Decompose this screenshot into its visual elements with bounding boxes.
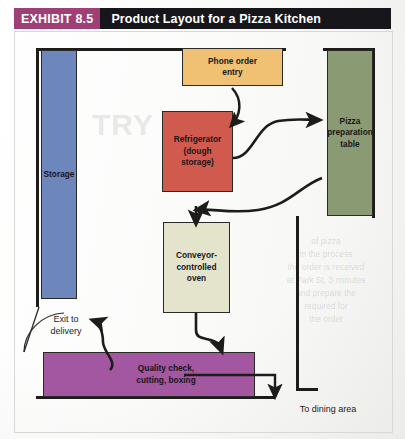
oven-label-line1: Conveyor- [176, 250, 217, 260]
fridge-label-line3: storage) [181, 157, 214, 167]
layout-box-pizza-preparation-table[interactable]: Pizza preparation table [327, 50, 373, 216]
exhibit-header: EXHIBIT 8.5 Product Layout for a Pizza K… [14, 8, 391, 29]
quality-label-line1: Quality check, [138, 363, 194, 373]
oven-label-line2: controlled [176, 262, 216, 272]
fridge-label-line1: Refrigerator [174, 134, 222, 144]
wall-left-vertical [36, 48, 39, 307]
oven-label-line3: oven [187, 273, 206, 283]
quality-label-line2: cutting, boxing [136, 375, 195, 385]
quality-label: Quality check, cutting, boxing [136, 363, 195, 386]
phone-label-line1: Phone order [208, 56, 257, 66]
layout-box-quality-check[interactable]: Quality check, cutting, boxing [43, 352, 255, 397]
fridge-label-line2: (dough [183, 146, 211, 156]
page-title: Product Layout for a Pizza Kitchen [100, 8, 391, 29]
watermark-block: of pizzain the processthe order is recei… [262, 235, 390, 326]
layout-box-conveyor-oven[interactable]: Conveyor- controlled oven [163, 222, 230, 313]
storage-label: Storage [44, 169, 75, 181]
layout-box-storage[interactable]: Storage [41, 50, 77, 299]
phone-label-line2: entry [222, 67, 242, 77]
layout-box-refrigerator[interactable]: Refrigerator (dough storage) [162, 111, 233, 192]
exit-label-line2: delivery [50, 326, 81, 336]
wall-right-foot [296, 388, 318, 391]
exit-label-line1: Exit to [53, 314, 78, 324]
label-exit-to-delivery: Exit to delivery [36, 313, 96, 337]
wall-right-lower [296, 216, 299, 391]
pizza-table-label: Pizza preparation table [327, 116, 373, 151]
pizza-label-line1: Pizza [340, 116, 361, 126]
label-to-dining-area: To dining area [278, 403, 378, 415]
oven-label: Conveyor- controlled oven [176, 250, 217, 285]
refrigerator-label: Refrigerator (dough storage) [174, 134, 222, 169]
pizza-label-line2: preparation [327, 127, 373, 137]
phone-order-label: Phone order entry [208, 56, 257, 79]
exhibit-badge: EXHIBIT 8.5 [14, 8, 100, 29]
pizza-label-line3: table [340, 139, 359, 149]
layout-box-phone-order-entry[interactable]: Phone order entry [182, 48, 283, 86]
